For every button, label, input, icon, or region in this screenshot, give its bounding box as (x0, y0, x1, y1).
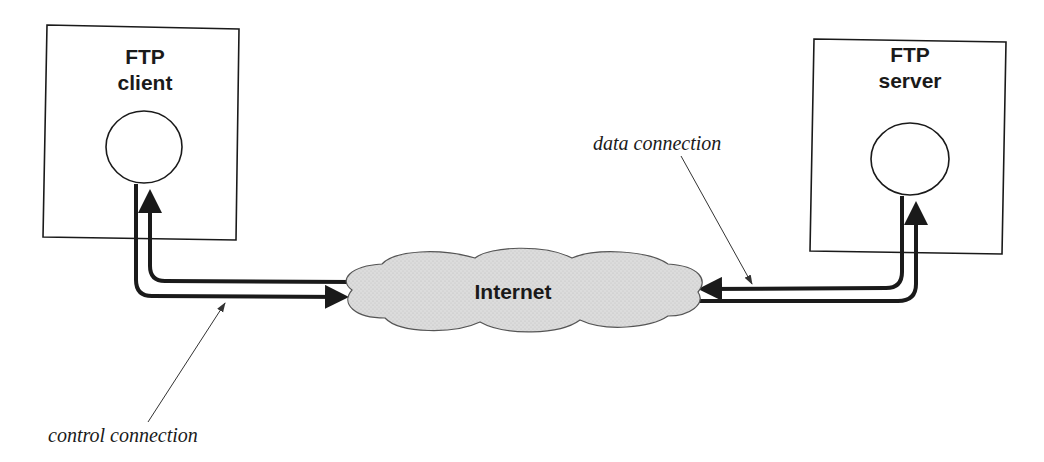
ftp-server-box: FTP server (810, 39, 1006, 254)
client-title-line2: client (118, 71, 173, 94)
data-connection-label: data connection (593, 132, 721, 154)
control-connection-label: control connection (48, 424, 198, 446)
client-process-circle (106, 111, 182, 183)
server-process-circle (871, 123, 949, 195)
internet-label: Internet (474, 280, 551, 303)
server-title-line1: FTP (890, 43, 930, 66)
server-title-line2: server (878, 69, 941, 92)
client-title-line1: FTP (125, 45, 165, 68)
data-connection-lines (692, 196, 916, 301)
internet-cloud: Internet (346, 248, 702, 332)
control-connection-lines (136, 184, 352, 297)
control-connection-annotation: control connection (48, 303, 225, 446)
ftp-diagram: FTP client FTP server Internet control c… (0, 0, 1044, 462)
ftp-client-box: FTP client (43, 25, 239, 240)
